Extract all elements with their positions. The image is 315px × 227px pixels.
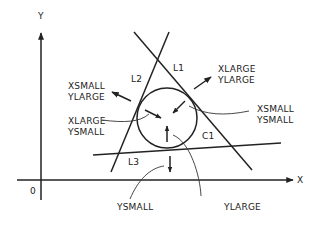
svg-text:YLARGE: YLARGE [67,92,105,102]
origin-label: 0 [30,186,36,196]
line-l3-label: L3 [128,157,139,167]
label-xsmall-ysmall: XSMALL YSMALL [256,104,294,125]
x-axis-label: X [297,175,303,185]
label-xlarge-ylarge: XLARGE YLARGE [217,64,256,85]
leader-xlarge-ysmall [102,114,149,122]
line-l2-label: L2 [131,74,142,84]
svg-text:XLARGE: XLARGE [68,116,106,126]
leader-ysmall [130,166,164,199]
svg-text:YSMALL: YSMALL [67,127,104,137]
circle-c1-label: C1 [202,131,214,141]
label-ysmall: YSMALL [116,202,153,212]
x-axis: X [17,175,303,185]
line-l1-label: L1 [173,63,184,73]
svg-text:XSMALL: XSMALL [68,81,105,91]
leader-ylarge [173,135,201,196]
arrow-inside-xlarge-ysmall-icon [145,110,161,118]
svg-text:YSMALL: YSMALL [256,115,293,125]
label-xsmall-ylarge: XSMALL YLARGE [67,81,105,102]
svg-text:YLARGE: YLARGE [217,75,255,85]
arrow-inside-xsmall-ysmall-icon [173,101,185,113]
tangent-lines-circle-diagram: Y X 0 L1 L2 L3 C1 XSMALL YLARGE XLARGE Y… [0,0,315,227]
arrow-xlarge-ylarge-icon [194,77,211,89]
label-ylarge: YLARGE [223,202,261,212]
label-xlarge-ysmall: XLARGE YSMALL [67,116,106,137]
y-axis-label: Y [37,11,44,21]
svg-text:XSMALL: XSMALL [257,104,294,114]
svg-text:XLARGE: XLARGE [218,64,256,74]
arrow-xsmall-ylarge-icon [112,92,131,101]
y-axis: Y [37,11,44,200]
